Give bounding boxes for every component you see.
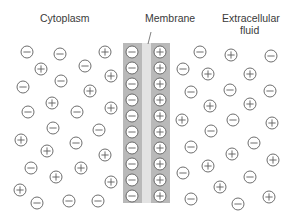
membrane-label: Membrane xyxy=(145,12,195,24)
negative-ion-icon xyxy=(126,174,138,186)
positive-ion-icon xyxy=(176,114,188,126)
negative-ion-icon xyxy=(177,63,189,75)
negative-ion-icon xyxy=(54,48,66,60)
negative-ion-icon xyxy=(264,85,276,97)
negative-ion-icon xyxy=(21,46,33,58)
negative-ion-icon xyxy=(92,195,104,207)
extracellular-label: Extracellular xyxy=(222,12,280,24)
positive-ion-icon xyxy=(202,68,214,80)
negative-ion-icon xyxy=(47,122,59,134)
positive-ion-icon xyxy=(267,154,279,166)
membrane-leader-line xyxy=(148,32,151,44)
negative-ion-icon xyxy=(63,195,75,207)
positive-ion-icon xyxy=(154,142,166,154)
negative-ion-icon xyxy=(22,106,34,118)
positive-ion-icon xyxy=(154,126,166,138)
positive-ion-icon xyxy=(99,46,111,58)
membrane-potential-diagram: Cytoplasm Membrane Extracellular fluid xyxy=(0,0,296,220)
positive-ion-icon xyxy=(105,176,117,188)
positive-ion-icon xyxy=(204,100,216,112)
negative-ion-icon xyxy=(126,142,138,154)
positive-ion-icon xyxy=(105,70,117,82)
negative-ion-icon xyxy=(70,137,82,149)
negative-ion-icon xyxy=(185,86,197,98)
extracellular-label-line2: fluid xyxy=(240,24,259,36)
positive-ion-icon xyxy=(41,145,53,157)
negative-ion-icon xyxy=(126,94,138,106)
negative-ion-icon xyxy=(31,197,43,209)
cytoplasm-label: Cytoplasm xyxy=(40,12,90,24)
negative-ion-icon xyxy=(185,193,197,205)
positive-ion-icon xyxy=(154,46,166,58)
positive-ion-icon xyxy=(263,191,275,203)
negative-ion-icon xyxy=(185,141,197,153)
positive-ion-icon xyxy=(84,85,96,97)
membrane-core xyxy=(142,43,151,203)
negative-ion-icon xyxy=(79,60,91,72)
negative-ion-icon xyxy=(265,50,277,62)
positive-ion-icon xyxy=(202,160,214,172)
negative-ion-icon xyxy=(248,137,260,149)
positive-ion-icon xyxy=(154,174,166,186)
positive-ion-icon xyxy=(154,94,166,106)
negative-ion-icon xyxy=(194,46,206,58)
positive-ion-icon xyxy=(14,184,26,196)
negative-ion-icon xyxy=(205,125,217,137)
positive-ion-icon xyxy=(105,102,117,114)
negative-ion-icon xyxy=(232,198,244,210)
positive-ion-icon xyxy=(154,62,166,74)
positive-ion-icon xyxy=(154,190,166,202)
negative-ion-icon xyxy=(227,114,239,126)
negative-ion-icon xyxy=(25,162,37,174)
positive-ion-icon xyxy=(35,63,47,75)
positive-ion-icon xyxy=(50,171,62,183)
positive-ion-icon xyxy=(214,181,226,193)
positive-ion-icon xyxy=(15,134,27,146)
negative-ion-icon xyxy=(126,126,138,138)
negative-ion-icon xyxy=(126,78,138,90)
negative-ion-icon xyxy=(126,158,138,170)
positive-ion-icon xyxy=(154,158,166,170)
negative-ion-icon xyxy=(71,106,83,118)
positive-ion-icon xyxy=(244,98,256,110)
negative-ion-icon xyxy=(126,110,138,122)
negative-ion-icon xyxy=(126,190,138,202)
positive-ion-icon xyxy=(266,117,278,129)
positive-ion-icon xyxy=(225,49,237,61)
positive-ion-icon xyxy=(75,162,87,174)
positive-ion-icon xyxy=(46,97,58,109)
negative-ion-icon xyxy=(126,46,138,58)
positive-ion-icon xyxy=(99,149,111,161)
negative-ion-icon xyxy=(17,81,29,93)
negative-ion-icon xyxy=(126,62,138,74)
negative-ion-icon xyxy=(244,171,256,183)
positive-ion-icon xyxy=(154,110,166,122)
cell-membrane xyxy=(123,43,170,203)
positive-ion-icon xyxy=(244,68,256,80)
negative-ion-icon xyxy=(224,84,236,96)
positive-ion-icon xyxy=(226,148,238,160)
negative-ion-icon xyxy=(93,124,105,136)
negative-ion-icon xyxy=(55,75,67,87)
negative-ion-icon xyxy=(177,167,189,179)
positive-ion-icon xyxy=(154,78,166,90)
